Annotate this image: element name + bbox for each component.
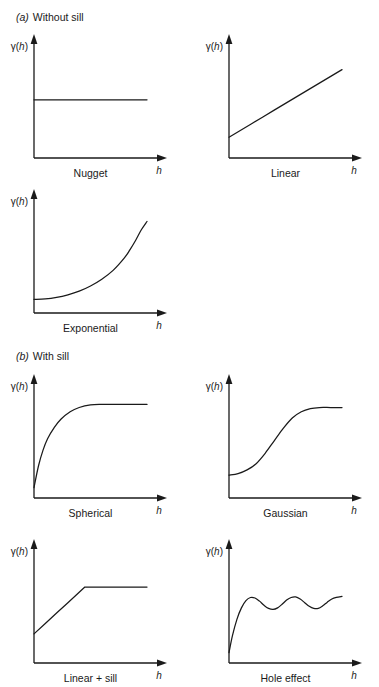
group-title-a: Without sill [29,11,84,23]
variogram-curve [34,587,147,634]
y-axis-label: γ(h) [206,41,223,52]
variogram-curve [34,404,147,487]
variogram-curve [229,70,342,138]
panel-caption: Spherical [69,507,113,519]
group-label-a: (a)Without sill [16,11,84,23]
x-axis-arrowhead [157,310,167,317]
panel-linear: γ(h)hLinear [209,28,374,178]
y-axis-label: γ(h) [11,381,28,392]
x-axis-label: h [156,165,162,176]
x-axis-arrowhead [157,660,167,667]
panel-nugget: γ(h)hNugget [14,28,179,178]
panel-caption: Linear [271,167,301,179]
variogram-models-figure: (a)Without sill γ(h)hNugget γ(h)hLinear … [0,0,379,687]
panel-caption: Gaussian [263,507,308,519]
x-axis-label: h [351,505,357,516]
x-axis-label: h [351,670,357,681]
x-axis-label: h [351,165,357,176]
plot-exponential: γ(h)hExponential [14,183,179,333]
plot-spherical: γ(h)hSpherical [14,368,179,518]
y-axis-label: γ(h) [206,381,223,392]
y-axis-label: γ(h) [11,41,28,52]
y-axis-arrowhead [31,374,38,384]
plot-gaussian: γ(h)hGaussian [209,368,374,518]
group-label-b: (b)With sill [16,350,69,362]
x-axis-label: h [156,320,162,331]
y-axis-arrowhead [31,539,38,549]
y-axis-arrowhead [226,374,233,384]
panel-caption: Hole effect [260,672,310,684]
panel-linear-sill: γ(h)hLinear + sill [14,533,179,683]
group-enumerator-b: (b) [16,350,29,362]
y-axis-label: γ(h) [206,546,223,557]
variogram-curve [34,221,147,299]
group-enumerator-a: (a) [16,11,29,23]
y-axis-arrowhead [31,34,38,44]
variogram-curve [229,407,342,475]
x-axis-arrowhead [352,155,362,162]
panel-spherical: γ(h)hSpherical [14,368,179,518]
x-axis-arrowhead [157,155,167,162]
plot-linear: γ(h)hLinear [209,28,374,178]
plot-nugget: γ(h)hNugget [14,28,179,178]
variogram-curve [229,596,342,652]
y-axis-arrowhead [226,539,233,549]
panel-gaussian: γ(h)hGaussian [209,368,374,518]
plot-hole_effect: γ(h)hHole effect [209,533,374,683]
y-axis-label: γ(h) [11,546,28,557]
x-axis-arrowhead [352,660,362,667]
x-axis-label: h [156,670,162,681]
panel-hole-effect: γ(h)hHole effect [209,533,374,683]
x-axis-arrowhead [157,495,167,502]
panel-caption: Nugget [74,167,108,179]
panel-caption: Linear + sill [64,672,117,684]
panel-exponential: γ(h)hExponential [14,183,179,333]
x-axis-label: h [156,505,162,516]
plot-linear_sill: γ(h)hLinear + sill [14,533,179,683]
y-axis-arrowhead [31,189,38,199]
panel-caption: Exponential [63,322,118,334]
x-axis-arrowhead [352,495,362,502]
y-axis-arrowhead [226,34,233,44]
group-title-b: With sill [29,350,69,362]
y-axis-label: γ(h) [11,196,28,207]
